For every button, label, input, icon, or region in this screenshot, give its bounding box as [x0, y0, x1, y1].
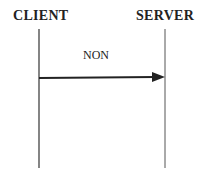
message-label: NON — [83, 48, 109, 63]
non-message-arrow — [39, 72, 165, 82]
arrowhead-icon — [152, 72, 165, 82]
sequence-diagram: CLIENT SERVER NON — [0, 0, 200, 174]
server-label: SERVER — [136, 8, 194, 24]
client-label: CLIENT — [13, 8, 68, 24]
diagram-canvas — [0, 0, 200, 174]
